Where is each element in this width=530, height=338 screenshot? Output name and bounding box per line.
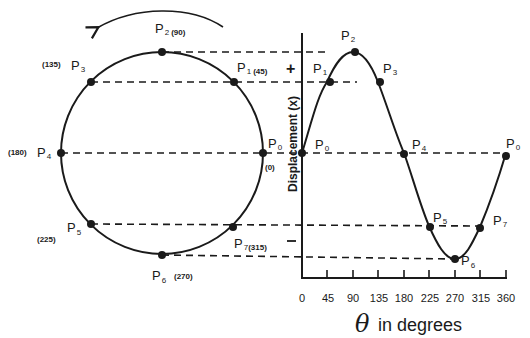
svg-text:(180): (180) [8,148,27,157]
svg-text:P3: P3 [383,61,398,77]
plus-sign: + [286,60,295,77]
svg-text:P4: P4 [37,145,52,161]
svg-text:P2(90): P2(90) [155,21,186,37]
y-axis-label: Displacement (x) [286,96,300,192]
svg-text:135: 135 [370,292,388,304]
svg-text:P6: P6 [152,268,167,285]
svg-text:360: 360 [497,292,515,304]
x-axis-ticks [327,270,506,278]
svg-text:(225): (225) [37,235,56,244]
svg-text:(135): (135) [42,60,61,69]
theta-symbol: θ [355,310,370,338]
svg-text:P7: P7 [493,213,508,229]
svg-text:(270): (270) [174,272,193,281]
svg-text:P2: P2 [341,28,356,44]
svg-text:P5: P5 [67,220,82,237]
svg-text:P6: P6 [461,253,476,270]
wave-points [298,48,510,263]
svg-text:270: 270 [446,292,464,304]
svg-text:315: 315 [472,292,490,304]
x-axis-label: in degrees [378,315,462,335]
svg-text:(0): (0) [265,163,275,172]
projection-lines [61,52,506,259]
svg-text:45: 45 [322,292,334,304]
svg-text:P1(45): P1(45) [237,60,268,76]
svg-text:90: 90 [347,292,359,304]
wave-labels: P0 P1 P2 P3 P4 P5 P6 P7 P0 [313,28,521,270]
shm-diagram: P2(90) P1(45) (135) P3 (180) P4 P0 (0) (… [0,0,530,338]
svg-text:180: 180 [395,292,413,304]
svg-text:225: 225 [421,292,439,304]
svg-text:P7(315): P7(315) [234,236,267,252]
svg-text:P0: P0 [268,136,283,152]
x-tick-labels: 0 45 90 135 180 225 270 315 360 [299,292,515,304]
svg-text:P3: P3 [71,58,86,74]
svg-text:P0: P0 [506,136,521,152]
svg-text:P4: P4 [412,137,427,153]
svg-text:P0: P0 [315,137,330,153]
svg-text:0: 0 [299,292,305,304]
svg-text:P1: P1 [313,61,328,77]
svg-text:P5: P5 [433,210,448,226]
